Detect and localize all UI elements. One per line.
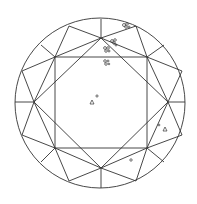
crystal-cluster-icon (111, 39, 117, 46)
crystal-icon (90, 100, 94, 104)
pinpoint-icon (96, 95, 98, 97)
pinpoint-icon (158, 124, 160, 126)
table-facet (55, 57, 147, 148)
upper-girdle-facets (15, 19, 185, 188)
girdle-outline (15, 18, 185, 188)
crystal-cluster-icon (123, 23, 131, 29)
crystal-icon (163, 127, 167, 131)
crystal-cluster-icon (104, 60, 110, 66)
crystal-icon (130, 159, 132, 161)
crystal-cluster-icon (104, 47, 110, 53)
diamond-plot (0, 0, 197, 204)
